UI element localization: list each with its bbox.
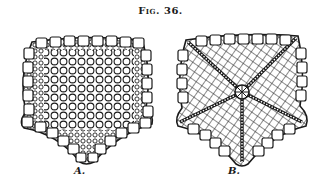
panel-b-label: B.: [228, 165, 240, 176]
panel-b-illustration: [172, 30, 312, 170]
panel-a-label: A.: [74, 165, 85, 176]
panel-a-illustration: [14, 30, 160, 170]
starfish-dorsal-drawing: [14, 30, 160, 170]
figure-title: Fig. 36.: [0, 5, 321, 16]
starfish-ventral-drawing: [172, 30, 312, 170]
